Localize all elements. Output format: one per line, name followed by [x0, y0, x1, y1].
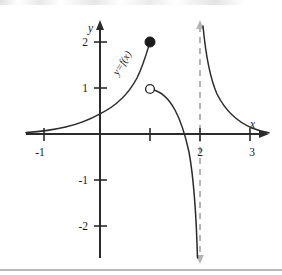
- xtick-label-3: 3: [249, 146, 255, 158]
- ytick-label--2: -2: [78, 220, 88, 232]
- function-curve: [26, 26, 269, 258]
- y-axis-label: y: [87, 22, 94, 35]
- xtick-label-2: 2: [197, 146, 203, 158]
- axes: [26, 20, 269, 258]
- graph-screenshot: -1 2 3 2 1 -1 -2 x y y=f(x): [0, 0, 282, 275]
- function-graph-figure: -1 2 3 2 1 -1 -2 x y y=f(x): [0, 0, 282, 275]
- ytick-label-1: 1: [82, 82, 88, 94]
- filled-point-1-2: [145, 37, 155, 47]
- ytick-label-2: 2: [82, 36, 88, 48]
- ytick-label--1: -1: [78, 174, 88, 186]
- y-axis-arrow-icon: [96, 20, 104, 30]
- open-point-1-1: [146, 85, 155, 94]
- asymptote-x-equals-2: [196, 20, 204, 264]
- curve-branch-middle: [152, 90, 198, 259]
- scan-artifact-bottom-margin: [0, 271, 282, 275]
- xtick-label--1: -1: [35, 146, 45, 158]
- curve-branch-right: [203, 26, 269, 133]
- curve-label-y-equals-f-of-x: y=f(x): [110, 48, 135, 78]
